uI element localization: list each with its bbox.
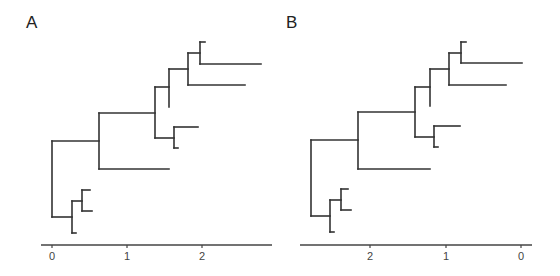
axis-tick-label: 0 [49,250,55,262]
axis-tick-label: 1 [124,250,130,262]
panel-b-tree: 210 [300,42,532,262]
panel-b-label: B [286,14,297,31]
panel-a-tree: 012 [41,42,272,262]
axis-tick-label: 0 [518,250,524,262]
axis-tick-label: 2 [367,250,373,262]
axis-tick-label: 2 [199,250,205,262]
panel-a-label: A [26,14,37,31]
tree-canvas: 012 210 [0,0,560,276]
axis-tick-label: 1 [443,250,449,262]
phylogenetic-tree-figure: A B 012 210 [0,0,560,276]
